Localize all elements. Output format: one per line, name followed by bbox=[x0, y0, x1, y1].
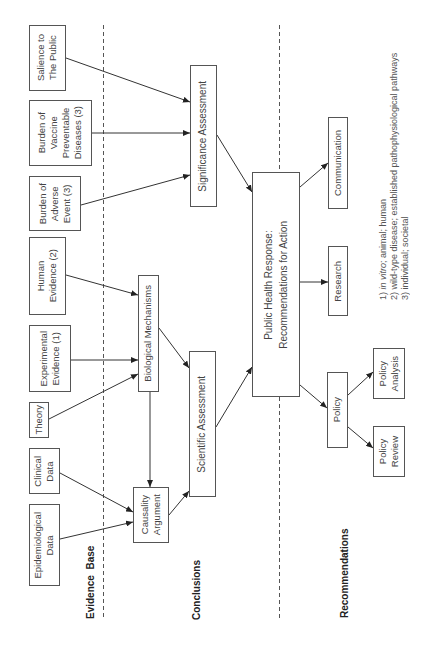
node-adverse-burden: Burden of Adverse Event (3) bbox=[29, 176, 81, 231]
edge-significance-to-phr bbox=[217, 135, 252, 192]
node-significance-assessment: Significance Assessment bbox=[190, 65, 217, 207]
node-label: Epidemiological Data bbox=[32, 512, 56, 579]
node-research: Research bbox=[328, 246, 348, 316]
node-biological-mechanisms: Biological Mechanisms bbox=[138, 275, 159, 392]
node-label: Scientific Assessment bbox=[196, 376, 209, 473]
section-label-evidence-base: Evidence Base bbox=[86, 530, 97, 619]
node-label: Policy bbox=[331, 397, 343, 422]
footnote-italic-term: in vitro bbox=[378, 263, 388, 290]
footnote-text: ; animal; human bbox=[378, 199, 388, 263]
node-label: Human Evidence (2) bbox=[35, 249, 59, 302]
node-theory: Theory bbox=[29, 402, 49, 438]
node-label: Clinical Data bbox=[32, 456, 56, 487]
node-label: Communication bbox=[332, 130, 344, 196]
node-label: Burden of Vaccine Preventable Diseases (… bbox=[36, 106, 85, 159]
edge-adverse-burden-to-significance bbox=[81, 175, 190, 205]
node-epidemiological-data: Epidemiological Data bbox=[29, 504, 60, 586]
node-communication: Communication bbox=[328, 117, 348, 209]
footnotes: 1) in vitro; animal; human 2) wild-type … bbox=[378, 12, 408, 300]
node-label: Salience to The Public bbox=[35, 34, 59, 81]
node-label: Significance Assessment bbox=[197, 81, 210, 192]
edge-clinical-to-causality bbox=[60, 473, 133, 512]
node-policy: Policy bbox=[327, 372, 348, 448]
diagram-canvas: Salience to The Public Burden of Vaccine… bbox=[0, 0, 422, 658]
node-label: Policy Review bbox=[377, 436, 401, 467]
edge-phr-to-policy bbox=[300, 385, 327, 408]
node-label: Burden of Adverse Event (3) bbox=[37, 183, 73, 224]
edge-biological-to-scientific bbox=[159, 328, 189, 368]
edge-salience-to-significance bbox=[66, 58, 190, 102]
node-label: Causality Argument bbox=[139, 494, 163, 535]
node-clinical-data: Clinical Data bbox=[29, 448, 60, 494]
node-label: Public Health Response: Recommendations … bbox=[262, 221, 291, 349]
edge-scientific-to-phr bbox=[216, 367, 252, 427]
node-label: Experimental Evidence (1) bbox=[38, 331, 62, 386]
node-label: Theory bbox=[33, 405, 45, 435]
edge-human-evidence-to-biological bbox=[66, 275, 138, 295]
node-policy-review: Policy Review bbox=[373, 426, 405, 477]
node-causality-argument: Causality Argument bbox=[133, 487, 169, 543]
footnote-2: 2) wild-type disease; established pathop… bbox=[389, 12, 400, 300]
node-label: Research bbox=[332, 261, 344, 302]
node-public-health-response: Public Health Response: Recommendations … bbox=[252, 172, 300, 397]
footnote-1: 1) in vitro; animal; human bbox=[378, 12, 389, 300]
edge-policy-to-review bbox=[348, 427, 373, 448]
node-policy-analysis: Policy Analysis bbox=[373, 348, 405, 399]
edge-policy-to-analysis bbox=[348, 372, 373, 395]
node-salience: Salience to The Public bbox=[29, 25, 66, 91]
footnote-3: 3) individual; societal bbox=[400, 12, 411, 300]
node-label: Policy Analysis bbox=[377, 356, 401, 391]
node-scientific-assessment: Scientific Assessment bbox=[189, 351, 216, 497]
node-human-evidence: Human Evidence (2) bbox=[29, 237, 66, 315]
node-vaccine-burden: Burden of Vaccine Preventable Diseases (… bbox=[29, 100, 92, 166]
footnote-number: 1) bbox=[378, 289, 388, 300]
node-label: Biological Mechanisms bbox=[142, 285, 154, 382]
edge-phr-to-communication bbox=[300, 163, 328, 187]
node-experimental-evidence: Experimental Evidence (1) bbox=[29, 325, 71, 392]
edge-causality-to-scientific bbox=[169, 491, 189, 515]
section-label-recommendations: Recommendations bbox=[340, 518, 352, 618]
section-label-conclusions: Conclusions bbox=[192, 540, 204, 620]
